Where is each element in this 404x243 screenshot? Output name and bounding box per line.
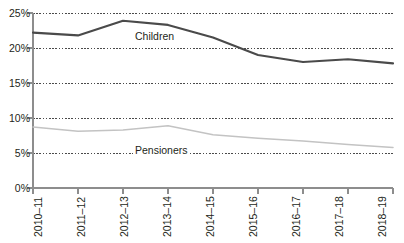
- x-axis-label-2013-14: 2013–14: [162, 196, 173, 237]
- series-annotation-children: Children: [133, 30, 176, 42]
- x-axis-label-2017-18: 2017–18: [334, 196, 345, 237]
- x-axis-label-2018-19: 2018–19: [377, 196, 388, 237]
- chart-container: 25% 20% 15% 10% 5% 0% 2010–11 2011–12 20…: [0, 0, 404, 243]
- series-line-children: [33, 21, 393, 64]
- y-axis-label-5: 5%: [0, 148, 30, 159]
- series-line-pensioners: [33, 126, 393, 148]
- x-axis-label-2012-13: 2012–13: [119, 196, 130, 237]
- y-axis-label-20: 20%: [0, 43, 30, 54]
- y-axis-label-0: 0%: [0, 183, 30, 194]
- x-axis-label-2014-15: 2014–15: [205, 196, 216, 237]
- y-axis-label-25: 25%: [0, 8, 30, 19]
- y-axis-label-10: 10%: [0, 113, 30, 124]
- x-axis-label-2010-11: 2010–11: [33, 197, 44, 237]
- x-axis-label-2011-12: 2011–12: [76, 197, 87, 237]
- y-axis-label-15: 15%: [0, 78, 30, 89]
- x-axis-label-2016-17: 2016–17: [291, 196, 302, 237]
- x-axis-label-2015-16: 2015–16: [248, 196, 259, 237]
- series-annotation-pensioners: Pensioners: [133, 144, 190, 156]
